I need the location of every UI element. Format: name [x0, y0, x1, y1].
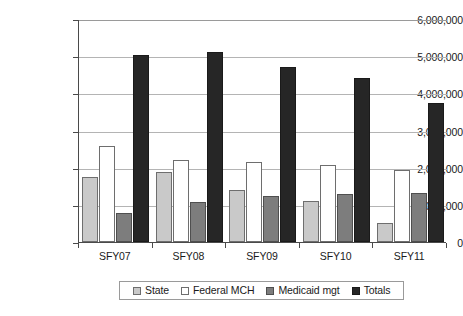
x-tick-label-sfy10: SFY10 — [299, 250, 373, 262]
bar-group-sfy10 — [300, 19, 374, 242]
legend-swatch-totals-icon — [352, 287, 360, 295]
bar-group-sfy07 — [79, 19, 153, 242]
bar-sfy10-medicaid-mgt — [337, 194, 353, 242]
legend-swatch-state-icon — [133, 287, 141, 295]
bar-sfy09-state — [229, 190, 245, 242]
bar-sfy09-federal-mch — [246, 162, 262, 242]
legend-label-state: State — [145, 285, 169, 296]
bar-sfy08-state — [156, 172, 172, 242]
x-tick-mark-1 — [152, 243, 153, 248]
bar-sfy08-medicaid-mgt — [190, 202, 206, 243]
x-tick-mark-5 — [446, 243, 447, 248]
legend-swatch-federal-mch-icon — [181, 287, 189, 295]
x-tick-mark-0 — [78, 243, 79, 248]
x-tick-label-sfy07: SFY07 — [78, 250, 152, 262]
bar-group-sfy08 — [153, 19, 227, 242]
bar-sfy10-federal-mch — [320, 165, 336, 242]
legend-entry-medicaid-mgt: Medicaid mgt — [266, 285, 339, 296]
bar-chart: 01,000,0002,000,0003,000,0004,000,0005,0… — [0, 0, 463, 316]
bar-sfy11-state — [377, 223, 393, 243]
legend-label-totals: Totals — [364, 285, 391, 296]
bar-sfy08-federal-mch — [173, 160, 189, 242]
bar-sfy10-state — [303, 201, 319, 242]
legend-entry-state: State — [133, 285, 169, 296]
x-tick-mark-3 — [299, 243, 300, 248]
bar-sfy11-totals — [428, 103, 444, 242]
x-tick-mark-2 — [225, 243, 226, 248]
x-tick-label-sfy09: SFY09 — [225, 250, 299, 262]
bar-sfy08-totals — [207, 52, 223, 242]
bar-group-sfy11 — [373, 19, 447, 242]
bar-sfy09-medicaid-mgt — [263, 196, 279, 242]
bar-sfy10-totals — [354, 78, 370, 242]
bar-sfy11-federal-mch — [394, 170, 410, 242]
bar-group-sfy09 — [226, 19, 300, 242]
x-tick-mark-4 — [372, 243, 373, 248]
bar-sfy07-federal-mch — [99, 146, 115, 242]
x-tick-label-sfy11: SFY11 — [372, 250, 446, 262]
legend-label-federal-mch: Federal MCH — [193, 285, 254, 296]
legend-label-medicaid-mgt: Medicaid mgt — [278, 285, 339, 296]
bar-sfy11-medicaid-mgt — [411, 193, 427, 242]
bar-sfy07-state — [82, 177, 98, 242]
plot-area — [78, 20, 446, 243]
legend-swatch-medicaid-mgt-icon — [266, 287, 274, 295]
legend-entry-federal-mch: Federal MCH — [181, 285, 254, 296]
legend-entry-totals: Totals — [352, 285, 391, 296]
bar-sfy09-totals — [280, 67, 296, 242]
chart-legend: StateFederal MCHMedicaid mgtTotals — [119, 281, 404, 300]
bar-sfy07-medicaid-mgt — [116, 213, 132, 242]
x-tick-label-sfy08: SFY08 — [152, 250, 226, 262]
bar-sfy07-totals — [133, 55, 149, 242]
